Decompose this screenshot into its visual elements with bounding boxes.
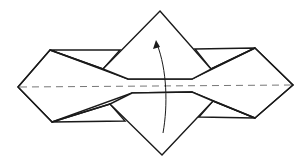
lower-triangle-flap xyxy=(110,92,213,155)
origami-diagram xyxy=(0,0,308,167)
